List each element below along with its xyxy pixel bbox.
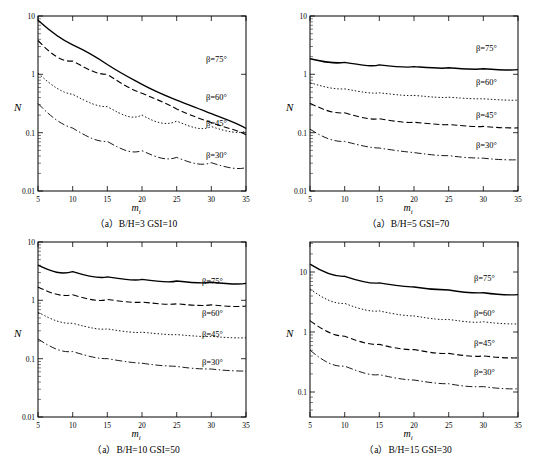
x-tick-5: 5 xyxy=(308,421,312,430)
x-axis-label: mi xyxy=(116,428,156,442)
x-tick-25: 25 xyxy=(173,421,181,430)
x-tick-35: 35 xyxy=(242,195,250,204)
figure-page: N xyxy=(0,0,543,458)
curve-label-beta-60: β=60° xyxy=(474,308,495,318)
x-axis-label-main: m xyxy=(403,428,410,439)
y-tick-0-01: 0.01 xyxy=(22,187,35,196)
y-tick-1: 1 xyxy=(31,296,35,305)
x-tick-30: 30 xyxy=(208,421,216,430)
x-axis-label-main: m xyxy=(131,202,138,213)
x-tick-25: 25 xyxy=(173,195,181,204)
x-tick-25: 25 xyxy=(445,195,453,204)
curve-label-beta-45: β=45° xyxy=(206,118,227,128)
panel-caption: （a）B/H=10 GSI=50 xyxy=(6,442,266,456)
x-tick-15: 15 xyxy=(376,195,384,204)
plot-svg-bottom-right: 0.1 1 10 5 10 15 20 25 30 35 xyxy=(278,232,538,432)
y-tick-10: 10 xyxy=(28,238,36,247)
x-tick-25: 25 xyxy=(445,421,453,430)
chart-panel-bottom-right: N xyxy=(278,232,538,457)
x-tick-30: 30 xyxy=(480,421,488,430)
curve-label-beta-45: β=45° xyxy=(476,110,497,120)
panel-caption: （a）B/H=5 GSI=70 xyxy=(278,216,538,230)
x-axis-label-main: m xyxy=(131,428,138,439)
curve-beta-75 xyxy=(310,59,518,70)
x-tick-10: 10 xyxy=(341,421,349,430)
plot-svg-bottom-left: 0.01 0.1 1 10 5 10 15 20 25 30 35 xyxy=(6,232,266,432)
x-axis-label-main: m xyxy=(403,202,410,213)
curve-label-beta-75: β=75° xyxy=(474,273,495,283)
curve-label-beta-60: β=60° xyxy=(206,92,227,102)
y-tick-0-01: 0.01 xyxy=(294,187,307,196)
x-tick-35: 35 xyxy=(242,421,250,430)
x-axis-label-sub: i xyxy=(411,434,413,442)
curve-label-beta-45: β=45° xyxy=(474,338,495,348)
x-tick-30: 30 xyxy=(480,195,488,204)
x-tick-10: 10 xyxy=(69,421,77,430)
y-tick-10: 10 xyxy=(300,12,308,21)
x-axis-label: mi xyxy=(388,428,428,442)
y-tick-1: 1 xyxy=(303,70,307,79)
plot-svg-top-right: 0.01 0.1 1 10 5 10 15 20 25 30 35 xyxy=(278,6,538,206)
x-tick-10: 10 xyxy=(69,195,77,204)
curve-label-beta-30: β=30° xyxy=(206,150,227,160)
x-tick-10: 10 xyxy=(341,195,349,204)
curve-label-beta-75: β=75° xyxy=(206,54,227,64)
curve-label-beta-60: β=60° xyxy=(202,308,223,318)
y-tick-10: 10 xyxy=(300,268,308,277)
x-tick-35: 35 xyxy=(514,421,522,430)
curve-beta-75 xyxy=(38,20,246,128)
x-axis-label: mi xyxy=(388,202,428,216)
y-tick-0-1: 0.1 xyxy=(298,388,308,397)
x-axis-label-sub: i xyxy=(139,208,141,216)
panel-caption: （a）B/H=15 GSI=30 xyxy=(278,442,538,456)
plot-svg-top-left: 0.01 0.1 1 10 5 10 15 20 25 30 35 xyxy=(6,6,266,206)
y-tick-0-1: 0.1 xyxy=(26,355,36,364)
x-axis-label: mi xyxy=(116,202,156,216)
chart-panel-top-left: N xyxy=(6,6,266,231)
x-tick-15: 15 xyxy=(104,421,112,430)
y-tick-1: 1 xyxy=(31,70,35,79)
y-tick-1: 1 xyxy=(303,328,307,337)
curve-beta-60 xyxy=(38,287,246,307)
x-tick-5: 5 xyxy=(308,195,312,204)
chart-panel-bottom-left: N xyxy=(6,232,266,457)
curve-label-beta-60: β=60° xyxy=(476,77,497,87)
x-tick-5: 5 xyxy=(36,421,40,430)
curve-label-beta-45: β=45° xyxy=(202,329,223,339)
x-tick-5: 5 xyxy=(36,195,40,204)
chart-panel-top-right: N xyxy=(278,6,538,231)
panel-caption: （a）B/H=3 GSI=10 xyxy=(6,216,266,230)
x-tick-35: 35 xyxy=(514,195,522,204)
x-tick-30: 30 xyxy=(208,195,216,204)
x-axis-label-sub: i xyxy=(411,208,413,216)
x-tick-15: 15 xyxy=(376,421,384,430)
x-axis-label-sub: i xyxy=(139,434,141,442)
curve-label-beta-30: β=30° xyxy=(474,367,495,377)
curve-label-beta-30: β=30° xyxy=(476,140,497,150)
curve-label-beta-75: β=75° xyxy=(202,276,223,286)
curve-label-beta-75: β=75° xyxy=(476,43,497,53)
y-tick-0-1: 0.1 xyxy=(26,129,36,138)
y-tick-10: 10 xyxy=(28,12,36,21)
y-tick-0-1: 0.1 xyxy=(298,129,308,138)
x-tick-15: 15 xyxy=(104,195,112,204)
y-tick-0-01: 0.01 xyxy=(22,413,35,422)
curve-label-beta-30: β=30° xyxy=(202,357,223,367)
curve-beta-60 xyxy=(310,289,518,324)
